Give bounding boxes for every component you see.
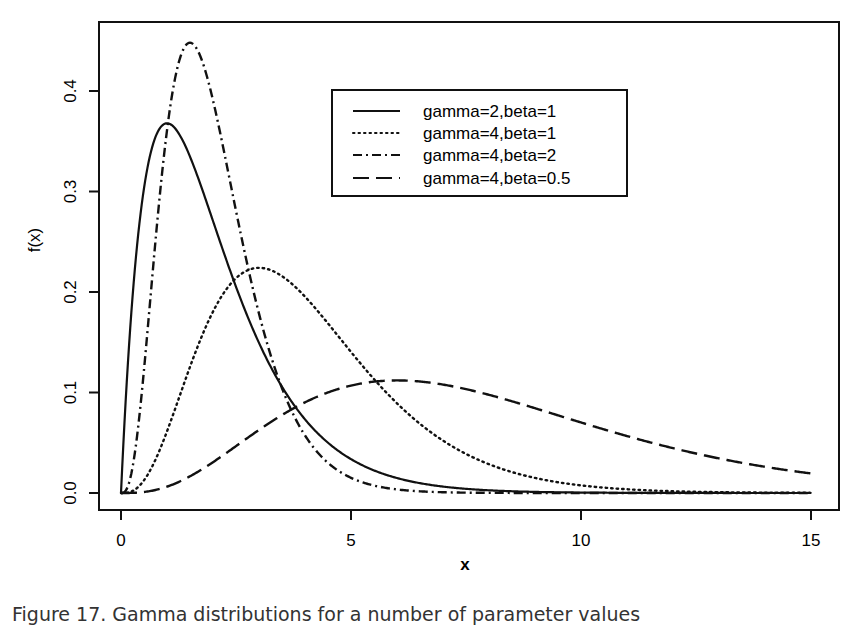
legend-label: gamma=4,beta=1 — [423, 124, 556, 143]
y-tick-label: 0.1 — [61, 381, 80, 405]
x-axis: 051015 — [116, 510, 820, 550]
x-axis-label: x — [460, 555, 470, 574]
figure-caption: Figure 17. Gamma distributions for a num… — [12, 603, 640, 625]
y-axis-label: f(x) — [25, 228, 44, 253]
legend: gamma=2,beta=1gamma=4,beta=1gamma=4,beta… — [332, 90, 627, 196]
curve-dotted — [121, 268, 811, 493]
x-tick-label: 0 — [116, 531, 125, 550]
legend-label: gamma=2,beta=1 — [423, 102, 556, 121]
y-tick-label: 0.4 — [61, 79, 80, 103]
y-tick-label: 0.2 — [61, 280, 80, 304]
x-tick-label: 10 — [572, 531, 591, 550]
x-tick-label: 5 — [346, 531, 355, 550]
curve-longdash — [121, 380, 811, 493]
y-axis: 0.00.10.20.30.4 — [61, 79, 99, 505]
legend-label: gamma=4,beta=0.5 — [423, 169, 570, 188]
legend-label: gamma=4,beta=2 — [423, 146, 556, 165]
x-tick-label: 15 — [802, 531, 821, 550]
y-tick-label: 0.3 — [61, 180, 80, 204]
y-tick-label: 0.0 — [61, 481, 80, 505]
